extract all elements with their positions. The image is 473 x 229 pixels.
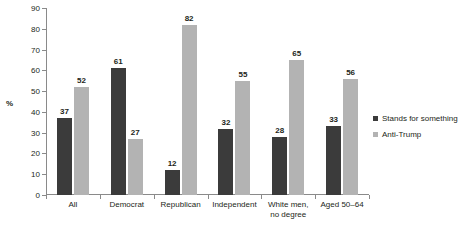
y-axis-tick-mark — [42, 133, 46, 134]
bar: 33 — [326, 126, 341, 195]
bar: 52 — [74, 87, 89, 195]
y-axis-tick-label: 30 — [31, 128, 40, 137]
y-axis-tick-mark — [42, 91, 46, 92]
x-axis-tick-mark — [154, 195, 155, 199]
x-axis-tick-mark — [100, 195, 101, 199]
y-axis-tick-mark — [42, 29, 46, 30]
plot-area: 0102030405060708090 37526127128232552865… — [46, 8, 369, 195]
y-axis-line — [46, 8, 47, 195]
bar-value-label: 65 — [292, 49, 301, 58]
bar-value-label: 82 — [185, 14, 194, 23]
legend-label: Stands for something — [382, 114, 458, 123]
y-axis-tick-label: 50 — [31, 87, 40, 96]
bar-value-label: 61 — [114, 57, 123, 66]
legend-item-anti-trump: Anti-Trump — [373, 130, 458, 139]
bar-group: 3255 — [218, 8, 250, 195]
y-axis-unit-label: % — [6, 99, 13, 108]
bar-value-label: 33 — [329, 115, 338, 124]
y-axis-tick-label: 90 — [31, 4, 40, 13]
bar: 27 — [128, 139, 143, 195]
bar: 37 — [57, 118, 72, 195]
bar-group: 6127 — [111, 8, 143, 195]
x-axis-tick-mark — [315, 195, 316, 199]
bar-value-label: 12 — [168, 159, 177, 168]
y-axis-tick-mark — [42, 70, 46, 71]
y-axis-tick-label: 0 — [36, 191, 40, 200]
bar-group: 3752 — [57, 8, 89, 195]
y-axis-tick-label: 80 — [31, 24, 40, 33]
bar: 61 — [111, 68, 126, 195]
bar-value-label: 28 — [275, 126, 284, 135]
x-axis-category-label: All — [68, 200, 77, 210]
legend-swatch-icon — [373, 116, 378, 121]
bar-value-label: 37 — [60, 107, 69, 116]
y-axis-tick-mark — [42, 8, 46, 9]
legend-label: Anti-Trump — [382, 130, 421, 139]
x-axis-category-label: Democrat — [109, 200, 144, 210]
x-axis-category-label: Independent — [212, 200, 257, 210]
bar-chart: % 0102030405060708090 375261271282325528… — [0, 0, 473, 229]
bar: 12 — [165, 170, 180, 195]
chart-legend: Stands for something Anti-Trump — [373, 114, 458, 146]
x-axis-tick-mark — [208, 195, 209, 199]
bar: 56 — [343, 79, 358, 195]
bar-value-label: 55 — [238, 70, 247, 79]
bar: 82 — [182, 25, 197, 195]
bar: 65 — [289, 60, 304, 195]
x-axis-category-label: Aged 50–64 — [321, 200, 364, 210]
x-axis-tick-mark — [261, 195, 262, 199]
bar-value-label: 56 — [346, 68, 355, 77]
bar: 28 — [272, 137, 287, 195]
y-axis-tick-label: 20 — [31, 149, 40, 158]
y-axis-tick-mark — [42, 153, 46, 154]
y-axis-tick-label: 60 — [31, 66, 40, 75]
legend-item-stands-for-something: Stands for something — [373, 114, 458, 123]
x-axis-tick-mark — [46, 195, 47, 199]
y-axis-tick-mark — [42, 174, 46, 175]
y-axis-tick-label: 40 — [31, 107, 40, 116]
x-axis-category-label: White men, no degree — [268, 200, 308, 220]
bar: 55 — [235, 81, 250, 195]
bar-value-label: 27 — [131, 128, 140, 137]
y-axis-tick-mark — [42, 50, 46, 51]
y-axis-tick-mark — [42, 112, 46, 113]
bar-value-label: 52 — [77, 76, 86, 85]
legend-swatch-icon — [373, 132, 378, 137]
y-axis-tick-label: 10 — [31, 170, 40, 179]
bar-group: 3356 — [326, 8, 358, 195]
x-axis-tick-mark — [369, 195, 370, 199]
bar-value-label: 32 — [221, 118, 230, 127]
bar-group: 2865 — [272, 8, 304, 195]
bar: 32 — [218, 129, 233, 195]
y-axis-tick-label: 70 — [31, 45, 40, 54]
bar-group: 1282 — [165, 8, 197, 195]
x-axis-category-label: Republican — [161, 200, 201, 210]
